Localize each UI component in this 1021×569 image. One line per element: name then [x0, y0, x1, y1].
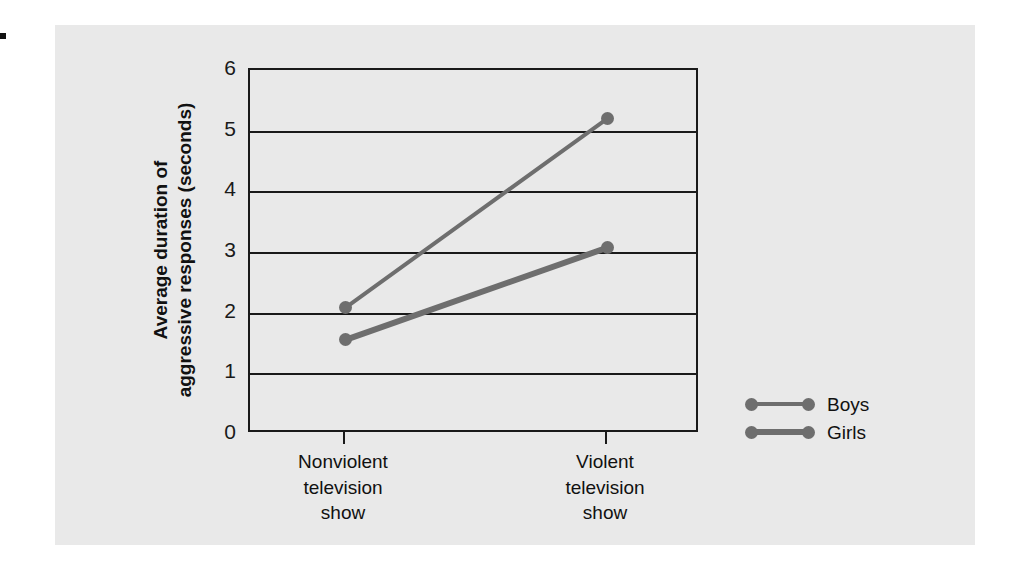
y-axis-title-line-2: aggressive responses (seconds): [173, 103, 197, 398]
legend-item-girls[interactable]: Girls: [745, 418, 955, 446]
series-line-boys: [344, 117, 608, 310]
plot-area: [248, 68, 698, 432]
gridline: [250, 131, 696, 133]
series-line-girls: [344, 245, 608, 343]
y-axis-tick-label: 5: [196, 118, 236, 139]
legend-dot-left: [745, 426, 758, 439]
chart-legend: BoysGirls: [745, 390, 955, 446]
x-axis-category-label-line: show: [505, 500, 705, 526]
gridline: [250, 373, 696, 375]
data-point-girls: [339, 333, 352, 346]
legend-dot-right: [802, 426, 815, 439]
x-axis-category-label-line: television: [505, 475, 705, 501]
data-point-boys: [339, 301, 352, 314]
legend-label: Girls: [827, 423, 866, 442]
legend-marker-icon: [745, 397, 815, 411]
x-axis-category-label-line: show: [243, 500, 443, 526]
y-axis-tick-label: 4: [196, 178, 236, 199]
x-axis-category-label-line: Nonviolent: [243, 449, 443, 475]
x-axis-tick: [343, 432, 345, 444]
legend-dot-left: [745, 398, 758, 411]
x-axis-tick: [605, 432, 607, 444]
y-axis-tick-label: 0: [196, 421, 236, 442]
y-axis-tick-label: 6: [196, 57, 236, 78]
figure-panel: Average duration of aggressive responses…: [55, 25, 975, 545]
gridline: [250, 313, 696, 315]
y-axis-title-line-1: Average duration of: [149, 161, 173, 340]
legend-label: Boys: [827, 395, 869, 414]
y-axis-tick-label: 3: [196, 239, 236, 260]
data-point-girls: [601, 241, 614, 254]
gridline: [250, 252, 696, 254]
page-edge-artifact: [0, 33, 6, 39]
y-axis-title: Average duration of aggressive responses…: [145, 68, 201, 432]
gridline: [250, 191, 696, 193]
data-point-boys: [601, 112, 614, 125]
x-axis-category-label: Nonviolenttelevisionshow: [243, 449, 443, 526]
y-axis-tick-label: 1: [196, 360, 236, 381]
legend-line: [751, 402, 809, 406]
legend-dot-right: [802, 398, 815, 411]
legend-item-boys[interactable]: Boys: [745, 390, 955, 418]
legend-line: [751, 429, 809, 435]
x-axis-category-label-line: television: [243, 475, 443, 501]
y-axis-tick-label: 2: [196, 300, 236, 321]
legend-marker-icon: [745, 425, 815, 439]
x-axis-category-label-line: Violent: [505, 449, 705, 475]
x-axis-category-label: Violenttelevisionshow: [505, 449, 705, 526]
